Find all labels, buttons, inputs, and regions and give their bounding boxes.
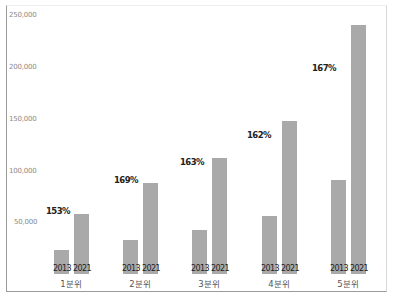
pct-annotation: 153% [46,206,70,216]
y-tick-50000: 50,000 [14,218,37,226]
y-tick-250000: 250,000 [9,11,37,19]
year-label: 2021 [211,264,228,273]
year-label: 2021 [142,264,159,273]
bar-5분위-2021 [351,25,366,274]
year-label: 2013 [122,264,139,273]
category-label: 2분위 [115,277,165,289]
year-label: 2021 [281,264,298,273]
pct-annotation: 169% [114,175,138,185]
y-tick-200000: 200,000 [9,63,37,71]
year-label: 2013 [53,264,70,273]
bar-5분위-2013 [331,180,346,274]
category-label: 1분위 [46,277,96,289]
y-tick-150000: 150,000 [9,115,37,123]
bar-3분위-2021 [212,158,227,274]
category-label: 5분위 [323,277,373,289]
pct-annotation: 162% [247,130,271,140]
bar-2분위-2021 [143,183,158,274]
year-label: 2021 [73,264,90,273]
year-label: 2013 [330,264,347,273]
category-label: 3분위 [184,277,234,289]
pct-annotation: 167% [312,63,336,73]
y-tick-100000: 100,000 [9,167,37,175]
year-label: 2013 [191,264,208,273]
year-label: 2013 [261,264,278,273]
year-label: 2021 [350,264,367,273]
bar-4분위-2021 [282,121,297,274]
pct-annotation: 163% [180,157,204,167]
category-label: 4분위 [254,277,304,289]
